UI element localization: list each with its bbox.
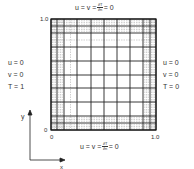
x-axis-label: x [60, 163, 63, 169]
bottom-bc-fraction: ∂T ∂n [102, 142, 107, 151]
domain-boundary [51, 19, 156, 130]
x-tick-right: 1.0 [151, 134, 159, 140]
bottom-bc-prefix: u = v = [80, 143, 101, 151]
left-bc-u: u = 0 [8, 59, 24, 67]
x-arrow-icon [60, 158, 65, 162]
y-tick-bottom: 0 [44, 127, 47, 133]
right-bc-t: T = 0 [163, 83, 179, 91]
top-boundary-condition: u = v = ∂T ∂n = 0 [75, 3, 114, 12]
top-bc-prefix: u = v = [75, 4, 96, 12]
right-bc-v: v = 0 [163, 71, 178, 79]
y-axis-label: y [21, 113, 25, 121]
bottom-boundary-condition: u = v = ∂T ∂n = 0 [80, 142, 119, 151]
left-bc-v: v = 0 [8, 71, 23, 79]
y-tick-top: 1.0 [40, 16, 48, 22]
bottom-bc-suffix: = 0 [109, 143, 119, 151]
x-tick-left: 0 [50, 134, 53, 140]
left-bc-t: T = 1 [8, 83, 24, 91]
top-bc-suffix: = 0 [104, 4, 114, 12]
top-bc-fraction: ∂T ∂n [97, 3, 102, 12]
y-arrow-icon [28, 110, 32, 115]
right-bc-u: u = 0 [163, 59, 179, 67]
